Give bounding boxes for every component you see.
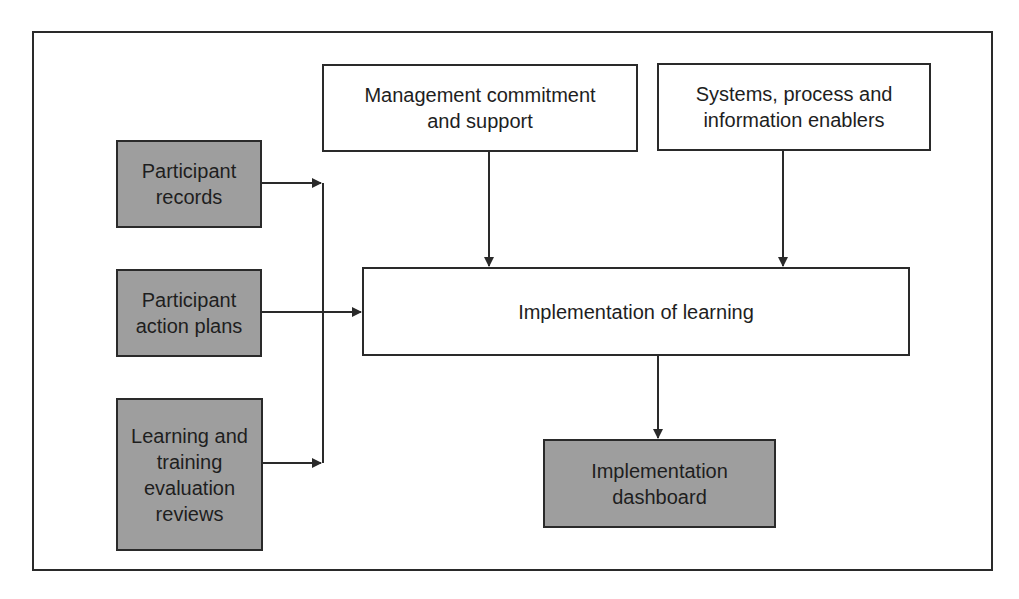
- implementation-dashboard-box: Implementation dashboard: [543, 439, 776, 528]
- participant-action-plans-box: Participant action plans: [116, 269, 262, 357]
- participant-records-label: Participant records: [142, 158, 237, 210]
- management-commitment-box: Management commitment and support: [322, 64, 638, 152]
- systems-enablers-label: Systems, process and information enabler…: [696, 81, 893, 133]
- systems-enablers-box: Systems, process and information enabler…: [657, 63, 931, 151]
- learning-training-reviews-box: Learning and training evaluation reviews: [116, 398, 263, 551]
- implementation-dashboard-label: Implementation dashboard: [591, 458, 728, 510]
- participant-records-box: Participant records: [116, 140, 262, 228]
- implementation-of-learning-label: Implementation of learning: [518, 299, 754, 325]
- implementation-of-learning-box: Implementation of learning: [362, 267, 910, 356]
- management-commitment-label: Management commitment and support: [364, 82, 595, 134]
- participant-action-plans-label: Participant action plans: [136, 287, 243, 339]
- learning-training-reviews-label: Learning and training evaluation reviews: [131, 423, 248, 527]
